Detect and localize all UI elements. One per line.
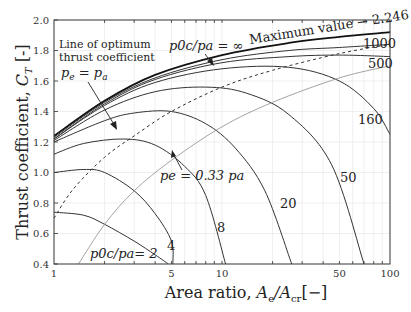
curve-label-20: 20: [280, 196, 297, 211]
optimum-line-math: pe = pa: [61, 65, 108, 82]
thrust-coefficient-chart: 0.40.60.81.01.21.41.61.82.0151050100 Thr…: [0, 0, 411, 312]
curve-label-50: 50: [340, 170, 357, 185]
y-tick-label: 1.2: [33, 137, 49, 148]
y-tick-label: 0.6: [33, 228, 49, 239]
y-axis-title: Thrust coefficient, CT [-]: [13, 44, 34, 240]
x-tick-label: 50: [333, 268, 346, 279]
series-line: [79, 66, 391, 264]
curve-label-500: 500: [368, 56, 393, 71]
curve-label-4: 4: [167, 238, 175, 253]
curve-label-2: p0c/pa= 2: [90, 246, 158, 261]
y-tick-label: 0.4: [33, 259, 49, 270]
curve-label-1000: 1000: [363, 36, 396, 51]
optimum-arrow: [88, 82, 115, 126]
x-tick-label: 100: [380, 268, 399, 279]
curve-label-160: 160: [358, 112, 383, 127]
y-tick-label: 1.8: [33, 45, 49, 56]
x-axis-title: Area ratio, Ae/Acr[−]: [164, 283, 328, 304]
pe-033-label: pe = 0.33 pa: [160, 168, 244, 183]
optimum-line-label-1: Line of optimum: [59, 38, 151, 51]
y-tick-label: 1.6: [33, 76, 49, 87]
x-tick-label: 5: [168, 268, 174, 279]
x-tick-label: 10: [216, 268, 229, 279]
y-tick-label: 1.0: [33, 167, 49, 178]
curve-label-8: 8: [217, 220, 225, 235]
infinity-label: p0c/pa = ∞: [169, 38, 243, 53]
y-tick-label: 1.4: [33, 106, 49, 117]
x-tick-label: 1: [51, 268, 57, 279]
optimum-line-label-2: thrust coefficient: [59, 51, 155, 64]
optimum-arrow-head-icon: [110, 121, 117, 130]
y-tick-label: 0.8: [33, 198, 49, 209]
y-tick-label: 2.0: [33, 15, 49, 26]
